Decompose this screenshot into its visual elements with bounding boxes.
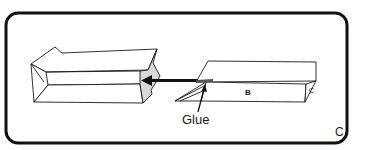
right-piece-front-face [201, 82, 306, 102]
left-prism-bottom-face [34, 84, 143, 103]
glue-step-diagram: Glue B C C [0, 0, 374, 150]
face-b-label: B [245, 88, 251, 97]
panel-label: C [335, 125, 344, 139]
right-piece-top-face [196, 61, 316, 82]
end-mark-label: C [309, 87, 314, 94]
glue-label: Glue [182, 112, 209, 127]
